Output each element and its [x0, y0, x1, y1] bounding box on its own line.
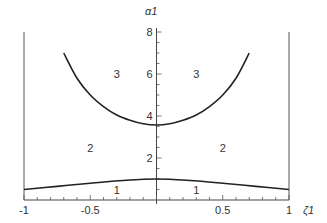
x-axis-ticks: -1-0.50.51	[19, 195, 292, 216]
region-label: 3	[193, 68, 199, 80]
y-tick-label: 4	[146, 110, 152, 122]
x-tick-label: -0.5	[81, 204, 100, 216]
x-tick-label: 0.5	[215, 204, 230, 216]
region-label: 2	[220, 142, 226, 154]
region-label: 3	[114, 68, 120, 80]
region-label: 2	[87, 142, 93, 154]
stability-region-chart: -1-0.50.51 2468 332211 ζ1 α1	[0, 0, 327, 223]
y-tick-label: 6	[146, 68, 152, 80]
x-tick-label: -1	[19, 204, 29, 216]
x-tick-label: 1	[286, 204, 292, 216]
y-tick-label: 8	[146, 26, 152, 38]
y-axis-title: α1	[145, 5, 157, 17]
region-label: 1	[114, 184, 120, 196]
y-tick-label: 2	[146, 152, 152, 164]
x-axis-title: ζ1	[303, 204, 314, 217]
region-label: 1	[193, 184, 199, 196]
y-axis-ticks: 2468	[146, 26, 161, 190]
